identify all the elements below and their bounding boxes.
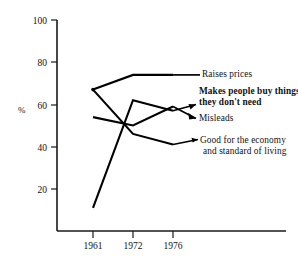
annotation-makes-people-buy-line2: they don't need bbox=[199, 97, 298, 108]
line-chart-plot: 100 80 60 40 20 % 1961 1972 1976 bbox=[0, 0, 298, 258]
data-point-1961-top bbox=[91, 88, 95, 92]
series-line-good-for-economy bbox=[93, 90, 173, 145]
x-tick-label-1961: 1961 bbox=[84, 241, 103, 251]
chart-container: 100 80 60 40 20 % 1961 1972 1976 bbox=[0, 0, 298, 258]
annotation-good-for-economy: Good for the economy and standard of liv… bbox=[200, 135, 287, 156]
series-line-raises-prices bbox=[93, 75, 173, 90]
y-tick-label-100: 100 bbox=[33, 16, 48, 26]
x-tick-label-1976: 1976 bbox=[164, 241, 183, 251]
y-axis-title: % bbox=[18, 105, 26, 115]
y-tick-label-80: 80 bbox=[38, 58, 48, 68]
annotation-makes-people-buy: Makes people buy things they don't need bbox=[199, 86, 298, 107]
series-line-makes-people-buy bbox=[93, 100, 173, 208]
annotation-makes-people-buy-line1: Makes people buy things bbox=[199, 86, 298, 97]
y-tick-label-40: 40 bbox=[38, 143, 48, 153]
annotation-good-for-economy-line1: Good for the economy bbox=[200, 135, 287, 146]
arrowhead-misleads bbox=[188, 113, 196, 120]
y-tick-label-20: 20 bbox=[38, 185, 48, 195]
annotation-raises-prices: Raises prices bbox=[202, 69, 252, 80]
y-tick-label-60: 60 bbox=[38, 101, 48, 111]
arrowhead-makes-people-buy bbox=[189, 104, 197, 109]
series-line-misleads bbox=[93, 107, 173, 126]
annotation-misleads: Misleads bbox=[199, 113, 233, 124]
annotation-good-for-economy-line2: and standard of living bbox=[200, 146, 287, 157]
x-tick-label-1972: 1972 bbox=[124, 241, 143, 251]
